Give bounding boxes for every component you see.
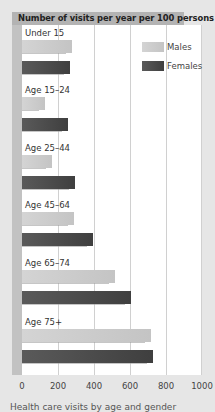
bar-males <box>22 97 45 110</box>
x-tick-label: 1000 <box>191 381 213 391</box>
gridline-600 <box>130 25 131 375</box>
bar-females <box>22 233 93 246</box>
legend-label-females: Females <box>167 61 202 71</box>
caption: Health care visits by age and gender <box>10 402 176 412</box>
bar-males <box>22 212 74 225</box>
gridline-400 <box>94 25 95 375</box>
x-tick-label: 0 <box>19 381 24 391</box>
gridline-800 <box>166 25 167 375</box>
legend-label-males: Males <box>167 42 192 52</box>
bar-males <box>22 270 115 283</box>
bar-males <box>22 155 52 168</box>
x-tick-label: 600 <box>122 381 138 391</box>
x-tick-label: 200 <box>50 381 66 391</box>
bar-females <box>22 176 75 189</box>
bar-females <box>22 291 131 304</box>
chart-title: Number of visits per year per 100 person… <box>18 13 214 23</box>
category-label: Age 65–74 <box>25 258 70 268</box>
x-tick-label: 400 <box>86 381 102 391</box>
plot-area: Under 15Age 15–24Age 25–44Age 45–64Age 6… <box>22 25 202 375</box>
gridline-1000 <box>201 25 202 375</box>
category-label: Age 45–64 <box>25 200 70 210</box>
bar-males <box>22 329 151 342</box>
x-tick-label: 800 <box>158 381 174 391</box>
legend-swatch-females <box>142 61 164 71</box>
bar-males <box>22 40 72 53</box>
bar-females <box>22 61 70 74</box>
category-strip <box>12 25 22 375</box>
bar-females <box>22 118 68 131</box>
legend-swatch-males <box>142 42 164 52</box>
category-label: Under 15 <box>25 28 64 38</box>
category-label: Age 15–24 <box>25 85 70 95</box>
category-label: Age 25–44 <box>25 143 70 153</box>
bar-females <box>22 350 153 363</box>
category-label: Age 75+ <box>25 317 62 327</box>
